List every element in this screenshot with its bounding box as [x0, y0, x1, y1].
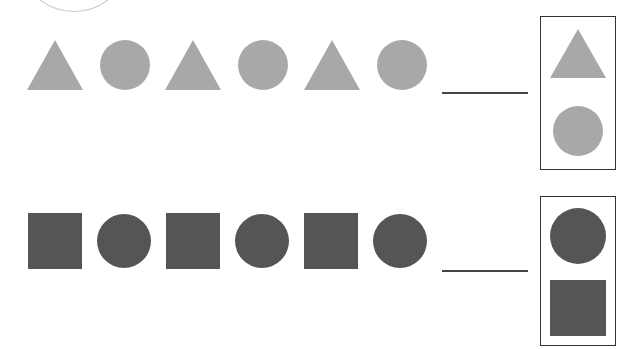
- triangle-shape: [165, 40, 221, 90]
- row-2-sequence: [28, 213, 427, 269]
- circle-shape: [373, 214, 427, 268]
- square-shape: [166, 213, 220, 269]
- circle-option[interactable]: [550, 208, 606, 264]
- square-shape: [28, 213, 82, 269]
- circle-shape: [235, 214, 289, 268]
- circle-option[interactable]: [553, 106, 603, 156]
- row-1-options-box: [540, 16, 616, 170]
- row-2-answer-blank[interactable]: [442, 270, 528, 272]
- pattern-worksheet: [0, 0, 634, 349]
- triangle-option[interactable]: [550, 29, 606, 78]
- circle-shape: [238, 40, 288, 90]
- row-1-answer-blank[interactable]: [442, 92, 528, 94]
- square-shape: [304, 213, 358, 269]
- circle-shape: [97, 214, 151, 268]
- square-option[interactable]: [550, 280, 606, 336]
- row-2-options-box: [540, 196, 616, 346]
- triangle-shape: [304, 40, 360, 90]
- circle-shape: [100, 40, 150, 90]
- row-1-sequence: [27, 40, 427, 90]
- circle-shape: [377, 40, 427, 90]
- triangle-shape: [27, 40, 83, 90]
